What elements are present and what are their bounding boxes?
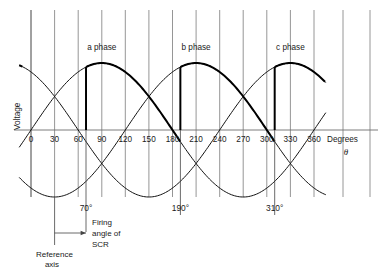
x-tick-330: 330 [284,135,298,144]
x-tick-180: 180 [166,135,180,144]
x-tick-0: 0 [29,135,34,144]
phase-label-b: b phase [182,43,212,52]
firing-note-line-1: Firing [92,218,112,227]
phase-label-c: c phase [276,43,305,52]
x-tick-30: 30 [50,135,60,144]
firing-angle-dimension [55,231,86,235]
firing-angle-label-190: 190° [172,203,189,213]
waveform-figure: Voltage 0 30 60 90 120 150 180 210 240 2… [0,0,378,271]
firing-angle-label-70: 70° [80,203,93,213]
reference-axis-line-2: axis [45,260,59,269]
y-axis-label: Voltage [13,102,22,130]
x-tick-120: 120 [118,135,132,144]
x-axis-symbol-theta: θ [344,147,349,157]
phase-label-a: a phase [87,43,117,52]
conduction-segment-c-head [19,65,22,66]
firing-angle-label-310: 310° [266,203,283,213]
firing-note-line-3: SCR [92,240,109,249]
x-tick-150: 150 [142,135,156,144]
x-tick-90: 90 [97,135,107,144]
firing-note-line-2: angle of [92,229,121,238]
dimension-arrowhead [81,231,86,235]
x-axis-label: Degrees [327,135,358,144]
waveform-svg: Voltage 0 30 60 90 120 150 180 210 240 2… [0,0,378,271]
x-tick-240: 240 [213,135,227,144]
reference-axis-line-1: Reference [36,250,73,259]
x-tick-210: 210 [189,135,203,144]
firing-bars [86,67,275,130]
conduction-segment-c [275,63,325,82]
angle-leaders [55,130,275,245]
x-tick-270: 270 [236,135,250,144]
x-tick-300: 300 [260,135,274,144]
x-tick-60: 60 [74,135,84,144]
x-tick-360: 360 [307,135,321,144]
